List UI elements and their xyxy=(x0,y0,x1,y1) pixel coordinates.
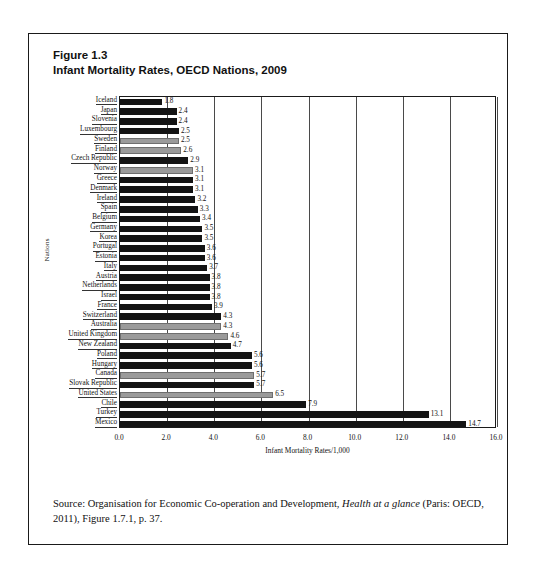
category-label: Slovenia xyxy=(92,115,117,125)
bar xyxy=(120,206,198,213)
category-label: Slovak Republic xyxy=(69,379,117,389)
figure-container: Figure 1.3 Infant Mortality Rates, OECD … xyxy=(28,33,508,545)
category-label: Israel xyxy=(101,291,117,301)
category-label: Norway xyxy=(94,164,117,174)
bar-value-label: 3.1 xyxy=(195,186,204,193)
bar-value-label: 2.9 xyxy=(190,157,199,164)
category-label: Germany xyxy=(90,223,117,233)
bar xyxy=(120,352,252,359)
bar xyxy=(120,118,177,125)
bar-value-label: 3.7 xyxy=(209,264,218,271)
x-tick-label: 6.0 xyxy=(256,433,265,442)
category-label: Chile xyxy=(101,399,117,409)
category-label: Estonia xyxy=(95,252,117,262)
bar-value-label: 3.6 xyxy=(207,255,216,262)
bar xyxy=(120,196,195,203)
bar xyxy=(120,392,273,399)
bar-value-label: 2.5 xyxy=(181,128,190,135)
bar-value-label: 4.7 xyxy=(233,342,242,349)
bar-value-label: 3.1 xyxy=(195,176,204,183)
bar xyxy=(120,167,193,174)
source-title: Health at a glance xyxy=(342,498,420,509)
category-label: Spain xyxy=(101,203,117,213)
x-tick-label: 4.0 xyxy=(209,433,218,442)
bar-value-label: 5.6 xyxy=(254,362,263,369)
bar xyxy=(120,372,254,379)
category-label: Japan xyxy=(101,106,117,116)
bar-value-label: 3.2 xyxy=(197,196,206,203)
source-note: Source: Organisation for Economic Co-ope… xyxy=(53,496,485,526)
bar-value-label: 3.8 xyxy=(212,274,221,281)
bar xyxy=(120,323,221,330)
bar xyxy=(120,274,210,281)
category-label: Iceland xyxy=(96,96,117,106)
x-tick-label: 10.0 xyxy=(348,433,361,442)
bar-value-label: 5.7 xyxy=(256,381,265,388)
x-tick-label: 14.0 xyxy=(442,433,455,442)
bar-value-label: 3.6 xyxy=(207,245,216,252)
gridline xyxy=(356,97,357,427)
bar-value-label: 3.1 xyxy=(195,167,204,174)
y-axis-tick-labels: IcelandJapanSloveniaLuxembourgSwedenFinl… xyxy=(39,96,119,428)
bar xyxy=(120,235,202,242)
category-label: Ireland xyxy=(97,194,117,204)
bar-value-label: 2.4 xyxy=(179,108,188,115)
gridline xyxy=(497,97,498,427)
gridline xyxy=(403,97,404,427)
x-tick-label: 2.0 xyxy=(162,433,171,442)
bar-value-label: 2.6 xyxy=(183,147,192,154)
gridline xyxy=(309,97,310,427)
x-tick-label: 8.0 xyxy=(303,433,312,442)
category-label: Poland xyxy=(97,350,117,360)
bar-value-label: 3.8 xyxy=(212,294,221,301)
bar-value-label: 4.6 xyxy=(230,333,239,340)
bar-value-label: 3.3 xyxy=(200,206,209,213)
category-label: Belgium xyxy=(92,213,117,223)
bar-value-label: 1.8 xyxy=(164,98,173,105)
bar xyxy=(120,313,221,320)
bar xyxy=(120,401,306,408)
x-tick-label: 0.0 xyxy=(114,433,123,442)
bar-value-label: 3.9 xyxy=(214,303,223,310)
gridline xyxy=(450,97,451,427)
category-label: Canada xyxy=(95,369,117,379)
x-tick-label: 12.0 xyxy=(395,433,408,442)
category-label: United States xyxy=(78,389,117,399)
bar xyxy=(120,294,210,301)
bar-value-label: 6.5 xyxy=(275,391,284,398)
category-label: Australia xyxy=(91,320,117,330)
bar-value-label: 7.9 xyxy=(308,401,317,408)
category-label: Netherlands xyxy=(82,281,117,291)
bar xyxy=(120,382,254,389)
category-label: Sweden xyxy=(94,135,117,145)
category-label: Switzerland xyxy=(83,311,117,321)
category-label: Italy xyxy=(104,262,117,272)
bar xyxy=(120,284,210,291)
bar xyxy=(120,255,205,262)
bar-value-label: 13.1 xyxy=(431,411,444,418)
category-label: Portugal xyxy=(93,242,117,252)
category-label: Hungary xyxy=(92,360,117,370)
bar-value-label: 5.7 xyxy=(256,372,265,379)
category-label: Greece xyxy=(97,174,117,184)
category-label: Czech Republic xyxy=(71,154,117,164)
bar xyxy=(120,265,207,272)
category-label: Finland xyxy=(95,145,117,155)
source-prefix: Source: Organisation for Economic Co-ope… xyxy=(53,498,342,509)
bar-value-label: 14.7 xyxy=(468,421,481,428)
plot-area: 1.82.42.42.52.52.62.93.13.13.13.23.33.43… xyxy=(119,96,496,428)
chart: Nations IcelandJapanSloveniaLuxembourgSw… xyxy=(29,96,509,491)
bar xyxy=(120,333,228,340)
bar xyxy=(120,421,466,428)
bar xyxy=(120,226,202,233)
bar xyxy=(120,245,205,252)
bar xyxy=(120,147,181,154)
category-label: France xyxy=(97,301,117,311)
bar xyxy=(120,411,429,418)
bar xyxy=(120,128,179,135)
category-label: Turkey xyxy=(96,408,117,418)
category-label: United Kingdom xyxy=(68,330,117,340)
bar-value-label: 3.5 xyxy=(204,225,213,232)
bar xyxy=(120,304,212,311)
bar-value-label: 2.5 xyxy=(181,137,190,144)
